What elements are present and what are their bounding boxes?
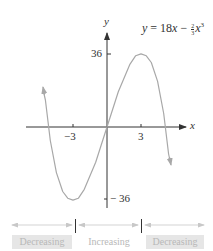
interval-label-decreasing-left: Decreasing [12, 235, 72, 249]
y-tick-label-36: 36 [91, 48, 102, 59]
equation-label: y = 18x − 23x3 [142, 22, 204, 36]
x-tick-label-neg3: −3 [64, 131, 76, 142]
fraction: 23 [191, 23, 194, 36]
y-tick-label-neg36: − 36 [110, 193, 130, 204]
y-axis-label: y [104, 16, 109, 27]
interval-label-increasing: Increasing [80, 235, 138, 249]
interval-label-decreasing-right: Decreasing [146, 235, 204, 249]
curve-right-arrow [170, 157, 172, 165]
chart-canvas [0, 0, 213, 251]
curve-left-arrow [43, 87, 45, 95]
x-axis-label: x [190, 120, 195, 131]
x-tick-label-3: 3 [138, 131, 144, 142]
